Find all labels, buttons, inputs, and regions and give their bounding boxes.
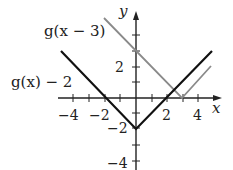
tick-label-x-neg4: −4 [58, 107, 79, 123]
series-g-x-minus-3 [104, 18, 211, 98]
chart: −4 −2 2 4 2 −2 −4 y x g(x − 3) g(x) − 2 [0, 0, 233, 170]
tick-label-x-4: 4 [193, 107, 202, 123]
tick-label-y-neg2: −2 [107, 120, 128, 136]
tick-label-y-2: 2 [115, 59, 124, 75]
label-g-x-minus-2: g(x) − 2 [11, 73, 72, 91]
tick-label-y-neg4: −4 [107, 155, 128, 170]
tick-label-x-2: 2 [162, 107, 171, 123]
y-axis-arrow-icon [133, 11, 139, 20]
label-g-x-minus-3: g(x − 3) [44, 22, 105, 40]
y-axis-label: y [118, 2, 128, 20]
x-axis-label: x [212, 99, 221, 117]
